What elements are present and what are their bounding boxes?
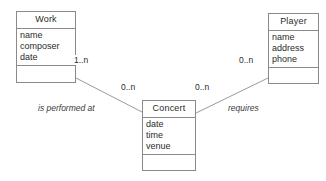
class-attributes-work: name composer date [17,29,75,66]
attribute-row: time [146,130,195,141]
class-operations-concert [143,155,195,166]
class-operations-player [269,68,318,79]
class-box-work[interactable]: Work name composer date [16,11,76,83]
multiplicity-work-end: 1..n [73,55,89,65]
attribute-row: name [272,32,318,43]
attribute-row: date [20,52,75,63]
attribute-row: name [20,30,75,41]
multiplicity-concert-right-end: 0..n [194,82,210,92]
attribute-row: address [272,43,318,54]
attribute-row: date [146,119,195,130]
uml-class-diagram: Work name composer date Concert date tim… [0,0,326,181]
attribute-row: venue [146,141,195,152]
class-name-work: Work [17,12,75,29]
association-label-is-performed-at: is performed at [38,103,95,113]
class-attributes-concert: date time venue [143,118,195,155]
class-attributes-player: name address phone [269,31,318,68]
association-label-requires: requires [228,103,259,113]
class-box-player[interactable]: Player name address phone [268,13,319,84]
attribute-row: phone [272,54,318,65]
multiplicity-player-end: 0..n [238,55,254,65]
attribute-row: composer [20,41,75,52]
class-name-player: Player [269,14,318,31]
class-operations-work [17,66,75,77]
class-name-concert: Concert [143,101,195,118]
multiplicity-concert-left-end: 0..n [120,82,136,92]
class-box-concert[interactable]: Concert date time venue [142,100,196,171]
